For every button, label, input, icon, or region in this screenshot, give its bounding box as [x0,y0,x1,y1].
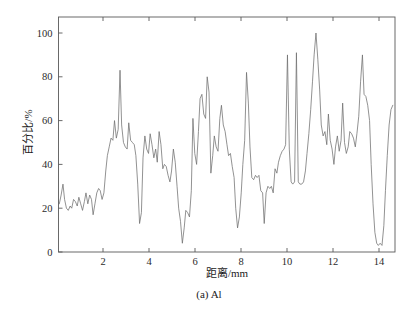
x-tick-label: 12 [328,256,339,267]
x-axis-title: 距离/mm [206,266,249,279]
x-tick-label: 8 [238,256,243,267]
chart-canvas: 2468101214 020406080100 距离/mm 百分比/% (a) … [0,0,419,311]
data-series-group [59,33,393,245]
x-tick-label: 6 [192,256,197,267]
plot-frame [59,17,396,252]
x-tick-label: 4 [146,256,152,267]
x-axis-ticks: 2468101214 [100,17,385,267]
y-tick-label: 80 [42,71,53,82]
y-axis-title: 百分比/% [22,109,34,154]
figure-container: 2468101214 020406080100 距离/mm 百分比/% (a) … [0,0,419,311]
y-tick-label: 60 [42,115,53,126]
y-tick-label: 0 [47,247,52,258]
y-tick-label: 40 [42,159,53,170]
x-tick-label: 2 [100,256,105,267]
figure-caption: (a) Al [196,288,221,301]
data-series-line [59,33,393,245]
x-tick-label: 14 [374,256,385,267]
y-tick-label: 100 [37,28,53,39]
x-tick-label: 10 [282,256,293,267]
y-tick-label: 20 [42,203,53,214]
